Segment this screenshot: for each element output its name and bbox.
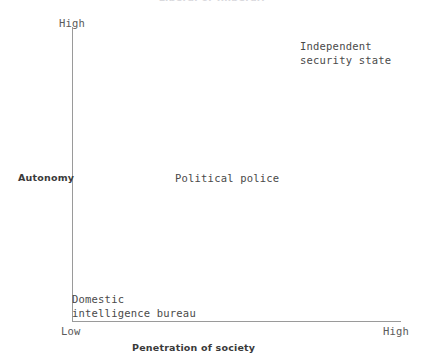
- x-axis-low-tick-label: Low: [61, 325, 81, 337]
- quadrant-chart: Liberal or Illiberal? High Low High Auto…: [0, 0, 425, 363]
- y-axis-high-tick-label: High: [59, 17, 85, 29]
- y-axis-title: Autonomy: [18, 172, 74, 183]
- x-axis-title: Penetration of society: [132, 342, 255, 353]
- chart-title: Liberal or Illiberal?: [0, 0, 425, 3]
- label-domestic-intelligence-bureau: Domestic intelligence bureau: [72, 293, 196, 320]
- label-independent-security-state: Independent security state: [300, 40, 391, 67]
- label-political-police: Political police: [175, 172, 279, 186]
- x-axis-line: [72, 321, 401, 322]
- x-axis-high-tick-label: High: [383, 325, 409, 337]
